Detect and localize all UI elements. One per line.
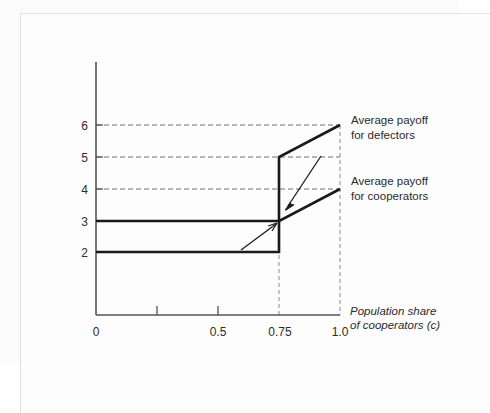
annotation-arrow-cooperators [241,223,277,250]
annotation-cooperators-line1: Average payoff [351,175,429,187]
x-axis-title: Population share of cooperators (c) [350,305,440,331]
y-tick-label-5: 5 [81,151,88,165]
x-axis-title-line1: Population share [350,305,436,317]
annotation-defectors-line1: Average payoff [351,114,429,126]
x-tick-labels: 0 0.5 0.75 1.0 [93,325,349,339]
y-tick-label-3: 3 [81,215,88,229]
x-tick-label-0.5: 0.5 [210,325,227,339]
annotation-cooperators-line2: for cooperators [351,190,429,202]
x-axis-title-line2: of cooperators (c) [350,319,440,331]
x-tick-label-1.0: 1.0 [332,325,349,339]
y-tick-label-2: 2 [81,246,88,260]
annotation-defectors-line2: for defectors [351,129,415,141]
annotation-label-defectors: Average payoff for defectors [351,114,429,141]
x-tick-label-0.75: 0.75 [268,325,292,339]
horizontal-guide-lines [96,125,340,189]
annotation-label-cooperators: Average payoff for cooperators [351,175,429,202]
y-tick-labels: 6 5 4 3 2 [81,119,88,260]
y-tick-label-6: 6 [81,119,88,133]
y-tick-label-4: 4 [81,183,88,197]
series-line-defectors [96,125,340,221]
x-tick-label-0: 0 [93,325,100,339]
